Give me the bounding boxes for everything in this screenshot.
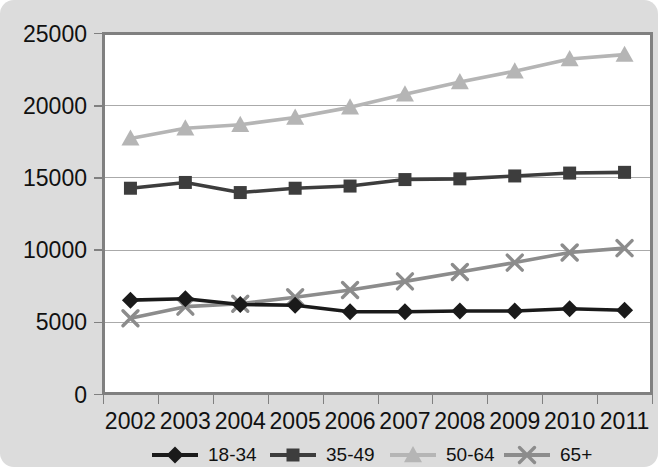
data-point-marker-square xyxy=(508,169,521,182)
data-point-marker-square xyxy=(618,166,631,179)
y-axis-tick-label: 15000 xyxy=(23,165,87,191)
x-axis-tick-label: 2007 xyxy=(379,408,430,434)
y-axis-tick-label: 5000 xyxy=(36,309,87,335)
line-chart: 0500010000150002000025000200220032004200… xyxy=(0,0,658,467)
data-point-marker-square xyxy=(398,173,411,186)
legend-item-35-49[interactable]: 35-49 xyxy=(270,444,375,465)
data-point-marker-square xyxy=(124,182,137,195)
chart-container: 0500010000150002000025000200220032004200… xyxy=(0,0,658,467)
x-axis-tick-label: 2006 xyxy=(324,408,375,434)
y-axis-tick-label: 20000 xyxy=(23,93,87,119)
legend-item-50-64[interactable]: 50-64 xyxy=(390,444,495,465)
data-point-marker-square xyxy=(563,167,576,180)
legend-label-65+: 65+ xyxy=(560,444,592,465)
x-axis-tick-label: 2002 xyxy=(105,408,156,434)
legend-label-35-49: 35-49 xyxy=(326,444,375,465)
legend-item-18-34[interactable]: 18-34 xyxy=(152,444,257,465)
y-axis-tick-label: 0 xyxy=(74,382,87,408)
legend-item-65+[interactable]: 65+ xyxy=(504,444,592,465)
data-point-marker-diamond xyxy=(167,447,184,464)
data-point-marker-square xyxy=(234,186,247,199)
x-axis-tick-label: 2003 xyxy=(160,408,211,434)
data-point-marker-square xyxy=(453,172,466,185)
x-axis-tick-label: 2005 xyxy=(270,408,321,434)
legend-label-18-34: 18-34 xyxy=(208,444,257,465)
x-axis-tick-label: 2004 xyxy=(215,408,266,434)
plot-area-background xyxy=(103,33,652,394)
data-point-marker-square xyxy=(344,180,357,193)
data-point-marker-square xyxy=(287,449,300,462)
data-point-marker-square xyxy=(179,176,192,189)
y-axis-tick-label: 10000 xyxy=(23,237,87,263)
x-axis-tick-label: 2009 xyxy=(489,408,540,434)
x-axis-tick-label: 2011 xyxy=(600,408,649,434)
x-axis-tick-label: 2008 xyxy=(434,408,485,434)
legend-label-50-64: 50-64 xyxy=(446,444,495,465)
x-axis-tick-label: 2010 xyxy=(544,408,595,434)
data-point-marker-square xyxy=(289,182,302,195)
y-axis-tick-label: 25000 xyxy=(23,21,87,47)
